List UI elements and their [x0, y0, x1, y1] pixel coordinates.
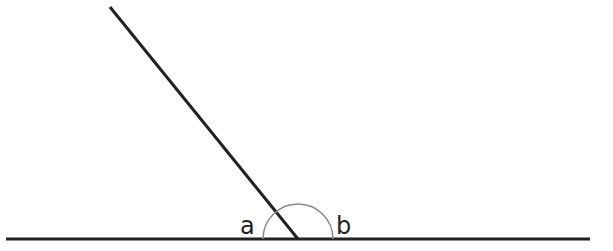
angle-ray [110, 7, 298, 239]
angle-label-a: a [240, 212, 255, 240]
angle-diagram: a b [0, 0, 613, 251]
angle-label-b: b [336, 212, 351, 240]
